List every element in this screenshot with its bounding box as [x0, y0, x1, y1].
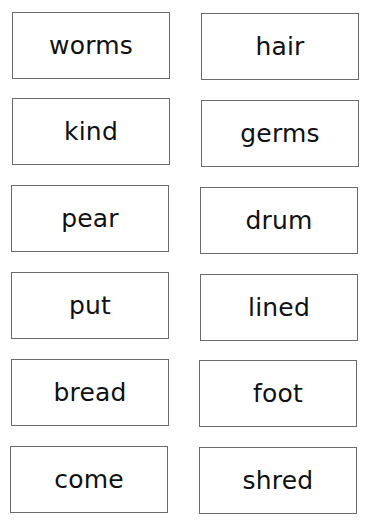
card-word: foot — [253, 379, 303, 408]
word-card: shred — [199, 447, 357, 514]
card-word: germs — [240, 119, 319, 148]
word-card: lined — [200, 274, 358, 341]
word-card: kind — [12, 98, 170, 165]
word-card: drum — [200, 187, 358, 254]
card-word: lined — [248, 293, 310, 322]
card-word: drum — [245, 206, 312, 235]
card-word: bread — [53, 378, 126, 407]
word-card: germs — [201, 100, 359, 167]
card-word: shred — [243, 466, 314, 495]
word-card: come — [10, 446, 168, 513]
word-card: worms — [12, 12, 170, 79]
word-card: bread — [11, 359, 169, 426]
word-card: hair — [201, 13, 359, 80]
card-word: come — [54, 465, 124, 494]
card-word: pear — [61, 204, 119, 233]
card-word: put — [69, 291, 111, 320]
card-word: kind — [64, 117, 118, 146]
word-card: put — [11, 272, 169, 339]
word-card: foot — [199, 360, 357, 427]
card-word: hair — [255, 32, 304, 61]
card-word: worms — [49, 31, 133, 60]
word-card: pear — [11, 185, 169, 252]
